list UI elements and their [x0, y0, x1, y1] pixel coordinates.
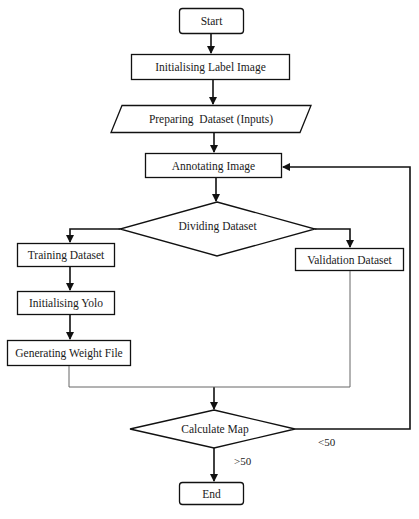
dividing-dataset-node: Dividing Dataset [150, 216, 285, 236]
arrow-dividing-to-validation [315, 229, 350, 247]
training-dataset-node: Training Dataset [17, 243, 115, 267]
start-node: Start [179, 8, 244, 34]
validation-dataset-node: Validation Dataset [295, 248, 404, 271]
initialising-yolo-node: Initialising Yolo [17, 291, 115, 315]
generating-weight-file-node: Generating Weight File [7, 340, 131, 366]
connector-weight-merge [69, 366, 350, 387]
edge-label-greater-than-50: >50 [234, 455, 251, 467]
calculate-map-node: Calculate Map [150, 419, 280, 439]
preparing-dataset-node: Preparing Dataset (Inputs) [111, 105, 311, 133]
init-label-image-node: Initialising Label Image [131, 54, 290, 80]
annotating-image-node: Annotating Image [145, 153, 282, 178]
arrow-dividing-to-training [70, 229, 120, 242]
end-node: End [179, 482, 244, 505]
edge-label-less-than-50: <50 [318, 436, 335, 448]
arrow-loop-back-to-annotating [283, 167, 410, 429]
